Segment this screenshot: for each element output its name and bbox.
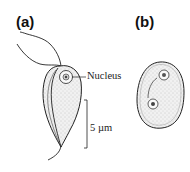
nucleus-label: Nucleus <box>87 71 121 82</box>
scale-bar-label: 5 µm <box>90 123 112 134</box>
cyst-figure <box>137 62 184 128</box>
panel-label-a: (a) <box>16 14 34 29</box>
scale-bar <box>84 100 87 148</box>
anterior-flagellum-1 <box>20 32 61 66</box>
posterior-flagellum <box>48 146 61 160</box>
nucleolus <box>65 76 67 78</box>
cyst-nucleus-1-inner <box>162 73 166 77</box>
panel-label-b: (b) <box>135 14 154 29</box>
anterior-flagellum-2 <box>17 44 61 66</box>
cyst-nucleus-2-inner <box>151 102 155 106</box>
trophozoite-figure <box>17 32 87 160</box>
